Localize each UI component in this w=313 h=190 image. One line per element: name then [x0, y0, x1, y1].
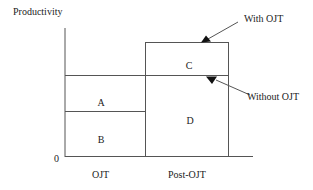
region-b-label: B [98, 135, 105, 145]
without-ojt-annotation: Without OJT [247, 92, 299, 102]
x-category-post-ojt: Post-OJT [168, 170, 206, 180]
region-a-label: A [97, 98, 104, 108]
x-category-ojt: OJT [92, 170, 109, 180]
region-c-label: C [186, 61, 193, 71]
with-ojt-arrow [201, 22, 238, 43]
origin-label: 0 [54, 154, 59, 164]
y-axis-label: Productivity [13, 7, 62, 17]
ojt-productivity-diagram: Productivity 0 A B C D With OJT Without … [0, 0, 313, 190]
region-d-label: D [186, 116, 193, 126]
with-ojt-annotation: With OJT [244, 14, 283, 24]
